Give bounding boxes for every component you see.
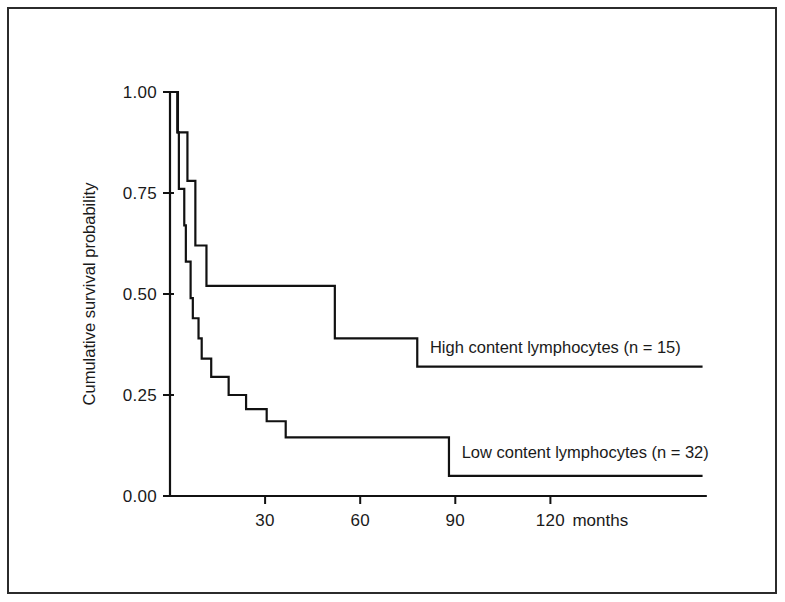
- figure-border: 0.000.250.500.751.00 306090120 months Cu…: [7, 7, 777, 594]
- curve-high-content-lymphocytes: [170, 92, 703, 367]
- curve-low-content-lymphocytes: [170, 92, 703, 476]
- y-axis-tick-labels: 0.000.250.500.751.00: [123, 83, 157, 506]
- axis-lines: [170, 92, 706, 496]
- x-axis-unit-label: months: [572, 511, 628, 530]
- series-label-high-content: High content lymphocytes (n = 15): [430, 338, 681, 356]
- x-axis-tick-labels: 306090120: [255, 511, 565, 530]
- y-tick-label: 0.00: [123, 487, 157, 506]
- y-tick-label: 1.00: [123, 83, 157, 102]
- series-label-low-content: Low content lymphocytes (n = 32): [462, 443, 709, 461]
- x-tick-label: 120: [536, 511, 565, 530]
- y-axis-ticks: [163, 92, 174, 496]
- x-axis-ticks: [265, 496, 550, 504]
- y-tick-label: 0.50: [123, 285, 157, 304]
- y-tick-label: 0.25: [123, 386, 157, 405]
- survival-curves: [170, 92, 703, 476]
- x-tick-label: 60: [350, 511, 370, 530]
- x-tick-label: 90: [446, 511, 466, 530]
- chart-area: 0.000.250.500.751.00 306090120 months Cu…: [9, 9, 779, 596]
- series-labels: High content lymphocytes (n = 15) Low co…: [430, 338, 709, 461]
- y-tick-label: 0.75: [123, 184, 157, 203]
- x-tick-label: 30: [255, 511, 275, 530]
- y-axis-title: Cumulative survival probability: [80, 182, 98, 406]
- axes: [170, 92, 706, 496]
- kaplan-meier-survival-chart: 0.000.250.500.751.00 306090120 months Cu…: [9, 9, 779, 596]
